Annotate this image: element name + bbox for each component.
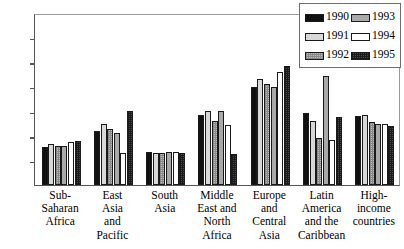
x-axis-label-line: Central: [243, 215, 295, 228]
x-axis-label-line: East: [86, 189, 138, 202]
bar: [218, 111, 224, 185]
legend-swatch: [351, 14, 370, 22]
bar-group: [87, 15, 139, 185]
legend-row: 19911994: [304, 26, 396, 45]
x-axis-label-line: High-: [348, 189, 400, 202]
x-axis-category-label: Sub-SaharanAfrica: [34, 189, 86, 229]
bar: [375, 124, 381, 185]
legend-swatch-cell: [350, 26, 371, 45]
bar: [336, 117, 342, 185]
legend-label: 1991: [325, 26, 350, 45]
x-axis-category-label: SouthAsia: [139, 189, 191, 215]
x-axis-label-line: Asia: [86, 202, 138, 215]
legend-swatch: [305, 52, 324, 60]
legend-label: 1994: [371, 26, 396, 45]
x-axis-label-line: Saharan: [34, 202, 86, 215]
legend-label: 1990: [325, 7, 350, 26]
bar: [75, 141, 81, 185]
x-axis-label-line: Europe: [243, 189, 295, 202]
bar: [42, 147, 48, 185]
x-axis-category-label: MiddleEast andNorthAfrica: [191, 189, 243, 242]
bar: [310, 121, 316, 185]
x-axis-label-line: Asia: [139, 202, 191, 215]
x-axis-label-line: Pacific: [86, 229, 138, 242]
x-axis-labels: Sub-SaharanAfricaEastAsiaandPacificSouth…: [34, 189, 400, 247]
bar: [231, 154, 237, 185]
legend-row: 19921995: [304, 45, 396, 64]
bar: [101, 124, 107, 185]
bar: [257, 79, 263, 185]
x-axis-label-line: countries: [348, 215, 400, 228]
bar: [362, 115, 368, 185]
bar: [382, 124, 388, 185]
bar: [166, 152, 172, 185]
y-axis-tick: [30, 63, 35, 65]
legend-swatch-cell: [304, 7, 325, 26]
bar: [55, 146, 61, 185]
x-axis-category-label: High-incomecountries: [348, 189, 400, 229]
x-axis-label-line: Asia: [243, 229, 295, 242]
legend-swatch-cell: [304, 45, 325, 64]
bar: [284, 66, 290, 185]
x-axis-label-line: South: [139, 189, 191, 202]
bar: [388, 126, 394, 185]
legend-row: 19901993: [304, 7, 396, 26]
legend-swatch-cell: [350, 7, 371, 26]
x-axis-label-line: North: [191, 215, 243, 228]
x-axis-label-line: and: [86, 215, 138, 228]
x-axis-label-line: America: [295, 202, 347, 215]
legend-label: 1993: [371, 7, 396, 26]
bar: [277, 72, 283, 185]
bar-group: [192, 15, 244, 185]
bar: [271, 87, 277, 185]
legend-swatch-cell: [304, 26, 325, 45]
bar: [303, 113, 309, 185]
bar: [48, 144, 54, 185]
x-axis-category-label: EuropeandCentralAsia: [243, 189, 295, 242]
y-axis-tick: [30, 39, 35, 41]
bar: [61, 146, 67, 185]
bar: [198, 115, 204, 185]
x-axis-category-label: EastAsiaandPacific: [86, 189, 138, 242]
x-axis-label-line: East and: [191, 202, 243, 215]
bar: [127, 111, 133, 185]
x-axis-category-label: LatinAmericaand theCaribbean: [295, 189, 347, 242]
bar: [316, 138, 322, 185]
chart-container: 01234567 199019931991199419921995 Sub-Sa…: [0, 0, 404, 249]
bar: [68, 142, 74, 185]
bar: [159, 153, 165, 185]
legend-swatch: [351, 52, 370, 60]
bar-group: [35, 15, 87, 185]
x-axis-label-line: Caribbean: [295, 229, 347, 242]
bar: [264, 84, 270, 185]
x-axis-label-line: Africa: [34, 215, 86, 228]
legend-swatch: [305, 14, 324, 22]
bar: [212, 121, 218, 185]
legend-label: 1995: [371, 45, 396, 64]
legend-swatch: [305, 33, 324, 41]
bar: [107, 129, 113, 186]
bar: [329, 140, 335, 185]
legend: 199019931991199419921995: [299, 3, 401, 68]
bar: [94, 131, 100, 185]
bar: [153, 153, 159, 185]
x-axis-label-line: and: [243, 202, 295, 215]
legend-label: 1992: [325, 45, 350, 64]
y-axis-tick: [30, 113, 35, 115]
bar: [369, 122, 375, 185]
bar-group: [244, 15, 296, 185]
bar-group: [140, 15, 192, 185]
bar: [114, 133, 120, 185]
x-axis-label-line: Sub-: [34, 189, 86, 202]
x-axis-label-line: and the: [295, 215, 347, 228]
bar: [205, 111, 211, 185]
legend-table: 199019931991199419921995: [304, 7, 396, 64]
y-axis-tick: [30, 137, 35, 139]
y-axis-tick: [30, 88, 35, 90]
y-axis-tick: [30, 162, 35, 164]
bar: [120, 153, 126, 185]
x-axis-label-line: Middle: [191, 189, 243, 202]
bar: [146, 152, 152, 185]
bar: [225, 125, 231, 185]
bar: [251, 87, 257, 185]
